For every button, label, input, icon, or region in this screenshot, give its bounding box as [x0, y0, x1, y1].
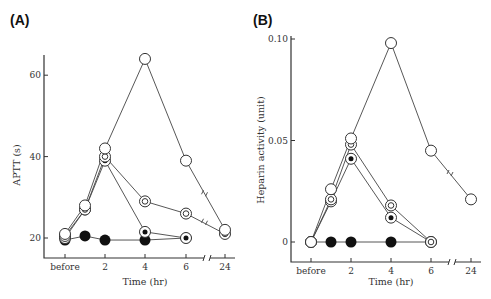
double-circle-marker [326, 194, 337, 205]
x-tick-label: 2 [348, 266, 354, 276]
x-tick-label: 6 [183, 262, 189, 272]
series-line [391, 205, 431, 242]
double-circle-marker [140, 196, 151, 207]
double-circle-marker [386, 200, 397, 211]
series-line [391, 43, 431, 151]
series-line [145, 201, 186, 213]
filled-circle-marker [80, 230, 91, 241]
filled-circle-marker [100, 235, 111, 246]
y-tick-label: 0 [282, 237, 288, 247]
open-circle-marker [181, 155, 192, 166]
open-circle-marker [80, 200, 91, 211]
x-tick-label: before [296, 266, 325, 276]
series-line [351, 145, 391, 206]
y-tick-label: 0.10 [268, 34, 288, 44]
x-tick-label: 4 [388, 266, 394, 276]
open-circle-marker [306, 237, 317, 248]
panel-a-label: (A) [10, 12, 29, 28]
chart-b-xlabel: Time (hr) [368, 276, 413, 287]
open-circle-marker [426, 145, 437, 156]
figure: (A) APTT (s) Time (hr) 204060before24624… [0, 0, 491, 299]
series-line [105, 157, 145, 202]
chart-b-axes [291, 36, 481, 262]
open-circle-marker [100, 143, 111, 154]
y-tick-label: 60 [30, 70, 42, 80]
chart-a: APTT (s) Time (hr) 204060before24624 [11, 53, 235, 287]
open-circle-marker [60, 228, 71, 239]
chart-a-ylabel: APTT (s) [11, 144, 22, 186]
series-line [145, 232, 186, 238]
panel-b-label: (B) [253, 12, 272, 28]
chart-b-ylabel: Heparin activity (unit) [255, 96, 266, 203]
series-line [145, 59, 186, 161]
open-circle-marker [346, 133, 357, 144]
open-circle-marker [326, 184, 337, 195]
double-circle-marker [426, 237, 437, 248]
x-tick-label: before [50, 262, 79, 272]
series-line [105, 59, 145, 149]
x-tick-label: 24 [219, 262, 231, 272]
series-line [391, 218, 431, 242]
open-circle-marker [220, 224, 231, 235]
series-line [145, 238, 186, 240]
open-circle-marker [140, 53, 151, 64]
open-circle-marker [466, 194, 477, 205]
y-tick-label: 20 [30, 233, 42, 243]
open-circle-marker [386, 38, 397, 49]
chart-b: Heparin activity (unit) Time (hr) 00.050… [255, 34, 481, 287]
filled-circle-marker [326, 237, 337, 248]
series-line [351, 43, 391, 138]
y-tick-label: 0.05 [268, 136, 288, 146]
x-tick-label: 2 [102, 262, 108, 272]
series-line [105, 161, 145, 232]
filled-circle-marker [386, 237, 397, 248]
x-tick-label: 24 [465, 266, 477, 276]
filled-circle-marker [346, 237, 357, 248]
double-circle-marker [181, 208, 192, 219]
x-tick-label: 4 [142, 262, 148, 272]
x-tick-label: 6 [428, 266, 434, 276]
y-tick-label: 40 [30, 152, 42, 162]
series-line [351, 159, 391, 218]
chart-a-xlabel: Time (hr) [122, 276, 167, 287]
